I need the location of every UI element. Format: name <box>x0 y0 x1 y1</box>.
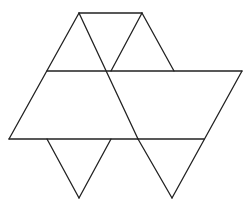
left-outer-edge <box>9 13 79 139</box>
top-right-inner <box>111 13 142 71</box>
net-edges <box>9 13 242 198</box>
top-left-diagonal <box>79 13 138 139</box>
bottom-left-tri-left <box>47 139 79 198</box>
top-right-outer <box>142 13 174 71</box>
bottom-left-tri-right <box>79 139 111 198</box>
bottom-right-tri-left <box>138 139 172 198</box>
right-outer-edge <box>172 71 242 198</box>
polyhedron-net-diagram <box>0 0 249 211</box>
